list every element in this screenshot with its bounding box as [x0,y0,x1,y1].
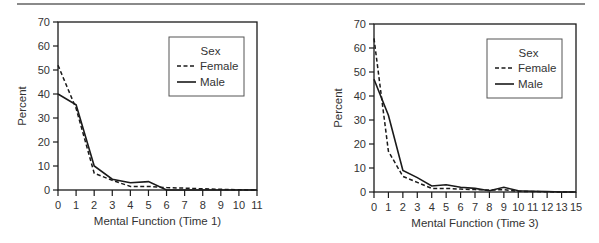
y-tick-label: 70 [38,16,50,28]
x-tick-label: 15 [570,201,582,213]
legend-label-female: Female [200,60,238,72]
charts-figure: 01020304050607001234567891011Mental Func… [0,0,599,243]
x-tick-label: 2 [91,199,97,211]
y-tick-label: 60 [354,42,366,54]
x-tick-label: 8 [486,201,492,213]
x-tick-label: 4 [429,201,435,213]
x-tick-label: 4 [127,199,133,211]
x-tick-label: 7 [182,199,188,211]
x-tick-label: 1 [73,199,79,211]
y-tick-label: 70 [354,18,366,30]
x-tick-label: 1 [385,201,391,213]
y-tick-label: 10 [38,160,50,172]
x-tick-label: 3 [109,199,115,211]
legend-label-male: Male [518,78,543,90]
x-tick-label: 8 [200,199,206,211]
legend: SexFemaleMale [169,37,244,96]
y-tick-label: 50 [354,66,366,78]
x-tick-label: 11 [251,199,262,211]
y-tick-label: 10 [354,162,366,174]
x-tick-label: 9 [218,199,224,211]
chart-time3: 01020304050607001234567891011121315Menta… [332,18,582,229]
chart-time1: 01020304050607001234567891011Mental Func… [16,16,263,227]
legend-label-female: Female [518,62,556,74]
x-tick-label: 12 [541,201,553,213]
x-tick-label: 6 [163,199,169,211]
x-tick-label: 0 [55,199,61,211]
x-tick-label: 3 [414,201,420,213]
y-axis-title: Percent [332,87,344,127]
x-tick-label: 11 [527,201,538,213]
y-tick-label: 0 [44,184,50,196]
y-tick-label: 30 [354,114,366,126]
x-tick-label: 9 [501,201,507,213]
series-line-male [58,94,257,190]
legend: SexFemaleMale [487,39,562,98]
x-tick-label: 5 [145,199,151,211]
x-axis-title: Mental Function (Time 3) [411,217,539,229]
y-tick-label: 40 [354,90,366,102]
y-tick-label: 40 [38,88,50,100]
y-tick-label: 30 [38,112,50,124]
legend-label-male: Male [200,76,225,88]
y-tick-label: 20 [354,138,366,150]
y-axis-title: Percent [16,85,28,125]
x-tick-label: 10 [233,199,245,211]
y-tick-label: 0 [360,186,366,198]
x-tick-label: 5 [443,201,449,213]
x-axis-title: Mental Function (Time 1) [94,215,222,227]
legend-title: Sex [201,45,221,57]
x-tick-label: 13 [555,201,567,213]
x-tick-label: 7 [472,201,478,213]
x-tick-label: 6 [458,201,464,213]
x-tick-label: 2 [400,201,406,213]
x-tick-label: 10 [512,201,524,213]
y-tick-label: 50 [38,64,50,76]
x-tick-label: 0 [371,201,377,213]
legend-title: Sex [519,47,539,59]
y-tick-label: 60 [38,40,50,52]
y-tick-label: 20 [38,136,50,148]
